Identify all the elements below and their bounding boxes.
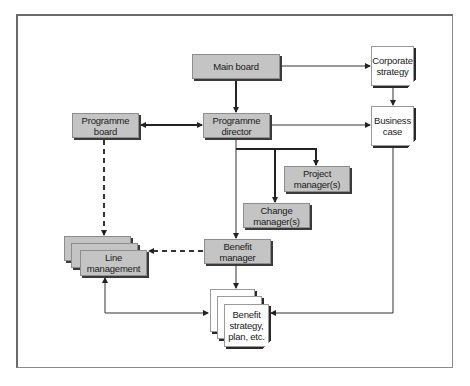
edge-line-management-benefit-strategy xyxy=(105,278,208,313)
node-benefit-strategy[interactable]: Benefit strategy, plan, etc. xyxy=(224,304,269,347)
node-programme-director[interactable]: Programme director xyxy=(203,113,270,138)
node-label: Corporate strategy xyxy=(372,55,413,77)
node-label: Line management xyxy=(81,252,146,274)
node-programme-board[interactable]: Programme board xyxy=(72,113,139,138)
node-label: Programme board xyxy=(73,115,138,137)
node-label: Benefit manager xyxy=(205,241,270,263)
node-corporate-strategy[interactable]: Corporate strategy xyxy=(371,46,414,86)
node-label: Benefit strategy, plan, etc. xyxy=(225,309,268,342)
node-business-case[interactable]: Business case xyxy=(371,106,414,146)
node-label: Main board xyxy=(213,61,259,72)
node-label: Business case xyxy=(372,115,413,137)
node-label: Project manager(s) xyxy=(285,168,349,190)
node-line-management[interactable]: Line management xyxy=(80,250,147,276)
node-label: Change manager(s) xyxy=(244,205,309,227)
node-label: Programme director xyxy=(204,115,269,137)
node-change-managers[interactable]: Change manager(s) xyxy=(243,203,310,228)
node-project-managers[interactable]: Project manager(s) xyxy=(284,166,350,192)
node-benefit-manager[interactable]: Benefit manager xyxy=(204,239,271,264)
node-main-board[interactable]: Main board xyxy=(192,54,280,79)
